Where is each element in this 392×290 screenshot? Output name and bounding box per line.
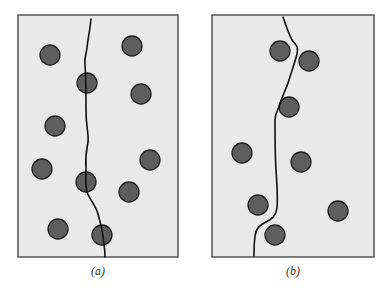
panel-a — [18, 15, 178, 257]
particle — [291, 152, 311, 172]
particle — [140, 150, 160, 170]
panel-b — [212, 15, 374, 257]
panel-frame — [212, 15, 374, 257]
particle — [77, 73, 97, 93]
particle — [119, 182, 139, 202]
particle — [232, 143, 252, 163]
particle — [32, 159, 52, 179]
particle — [40, 45, 60, 65]
particle — [270, 41, 290, 61]
caption-b: (b) — [273, 264, 313, 279]
particle — [122, 36, 142, 56]
particle — [265, 225, 285, 245]
grain-boundary-figure — [0, 0, 392, 290]
particle — [45, 116, 65, 136]
particle — [131, 84, 151, 104]
particle — [248, 195, 268, 215]
particle — [299, 51, 319, 71]
caption-a: (a) — [78, 264, 118, 279]
particle — [328, 201, 348, 221]
particle — [48, 219, 68, 239]
